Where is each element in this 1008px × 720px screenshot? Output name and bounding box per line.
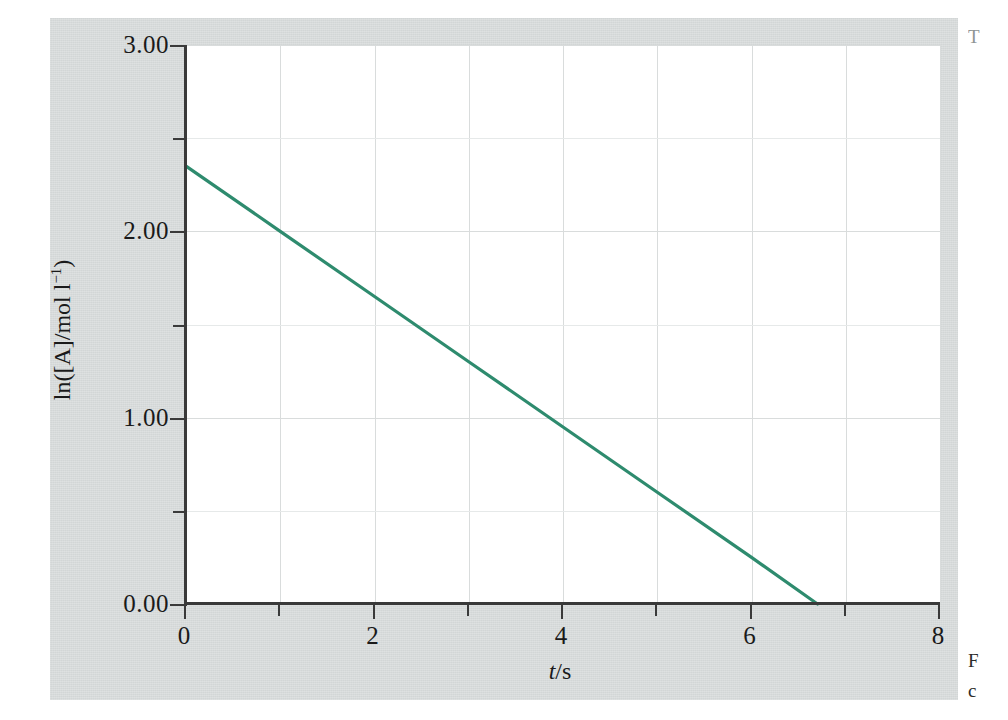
x-axis-minor-tick: [844, 605, 846, 616]
x-axis-tick-label: 4: [555, 622, 568, 650]
x-axis-tick: [184, 605, 186, 619]
y-axis-title-prefix: ln([A]/mol l: [49, 284, 75, 401]
series-line-path: [186, 166, 817, 604]
x-axis-tick-label: 0: [178, 622, 191, 650]
x-axis-tick-label: 6: [743, 622, 756, 650]
y-axis-tick: [170, 45, 184, 47]
margin-note-top: T: [968, 26, 1008, 48]
margin-note-bottom: F c: [968, 650, 1008, 702]
y-axis: 0.001.002.003.00: [184, 45, 187, 606]
margin-note-bottom-line2: c: [968, 680, 1008, 702]
y-axis-minor-tick: [173, 511, 184, 513]
y-axis-tick-label: 0.00: [123, 590, 169, 618]
y-axis-tick: [170, 231, 184, 233]
x-axis-tick: [561, 605, 563, 619]
series-line-chart: [186, 45, 940, 604]
y-axis-tick-label: 3.00: [123, 31, 169, 59]
y-axis-tick-label: 1.00: [123, 404, 169, 432]
x-axis: 02468: [184, 602, 940, 605]
plot-area: [186, 45, 940, 604]
y-axis-minor-tick: [173, 325, 184, 327]
figure-page: 0.001.002.003.00 02468 ln([A]/mol l−1) t…: [0, 0, 1008, 720]
gridline-vertical: [940, 45, 941, 604]
x-axis-tick-label: 8: [932, 622, 945, 650]
x-axis-title-unit: /s: [555, 658, 571, 684]
x-axis-minor-tick: [467, 605, 469, 616]
y-axis-tick: [170, 418, 184, 420]
x-axis-tick: [373, 605, 375, 619]
y-axis-title: ln([A]/mol l−1): [48, 260, 76, 400]
x-axis-title-symbol: t: [549, 658, 556, 684]
y-axis-tick: [170, 604, 184, 606]
x-axis-tick: [938, 605, 940, 619]
x-axis-minor-tick: [655, 605, 657, 616]
y-axis-tick-label: 2.00: [123, 217, 169, 245]
x-axis-minor-tick: [278, 605, 280, 616]
x-axis-title: t/s: [549, 658, 572, 685]
y-axis-minor-tick: [173, 138, 184, 140]
y-axis-title-exponent: −1: [48, 268, 64, 284]
x-axis-tick-label: 2: [366, 622, 379, 650]
y-axis-title-suffix: ): [49, 260, 75, 268]
x-axis-tick: [750, 605, 752, 619]
margin-note-bottom-line1: F: [968, 650, 979, 671]
